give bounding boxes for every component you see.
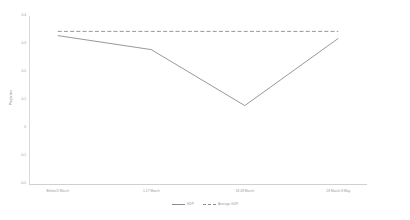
y-axis-tick-label: 0.4	[12, 14, 26, 17]
x-axis-tick-label: 18-28 March	[235, 190, 254, 193]
y-axis-tick-label: 0.2	[12, 70, 26, 73]
y-axis-tick-label: 0	[12, 126, 26, 129]
x-axis-tick-labels: Before/1 March1-17 March18-28 March28 Ma…	[29, 190, 367, 200]
line-chart: Proportion 0.40.30.20.10-0.1-0.2 Before/…	[0, 0, 410, 220]
y-axis-tick-label: -0.2	[12, 182, 26, 185]
series-line-gdp	[58, 36, 339, 106]
x-axis-tick-label: Before/1 March	[46, 190, 69, 193]
x-axis-line	[29, 184, 367, 185]
y-axis-tick-label: 0.3	[12, 42, 26, 45]
legend-line-swatch-icon	[203, 204, 216, 205]
legend-label: Average GDP	[218, 203, 238, 206]
legend-entry[interactable]: GDP	[172, 203, 194, 206]
y-axis-tick-labels: 0.40.30.20.10-0.1-0.2	[8, 0, 26, 220]
y-axis-tick-label: 0.1	[12, 98, 26, 101]
legend-entry[interactable]: Average GDP	[203, 203, 238, 206]
plot-svg	[29, 16, 367, 184]
x-axis-tick-label: 28 March-8 May	[326, 190, 350, 193]
legend-line-swatch-icon	[172, 204, 185, 205]
plot-area	[29, 16, 367, 184]
legend-label: GDP	[187, 203, 194, 206]
x-axis-tick-label: 1-17 March	[143, 190, 160, 193]
chart-legend: GDPAverage GDP	[0, 203, 410, 206]
y-axis-tick-label: -0.1	[12, 154, 26, 157]
